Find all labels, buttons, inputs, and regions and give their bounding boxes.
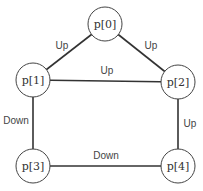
node-label: p[2] (167, 76, 190, 89)
node-p1: p[1] (16, 63, 50, 97)
node-p0: p[0] (88, 7, 122, 41)
node-label: p[0] (94, 18, 117, 31)
edge-label-p2-p4: Up (184, 118, 197, 129)
edge-label-p0-p2: Up (145, 40, 158, 51)
node-label: p[3] (22, 160, 45, 173)
node-p4: p[4] (161, 149, 195, 183)
edge-label-p1-p2: Up (101, 65, 114, 76)
node-label: p[4] (167, 160, 190, 173)
node-p2: p[2] (161, 65, 195, 99)
node-label: p[1] (22, 74, 45, 87)
edge-label-p0-p1: Up (56, 40, 69, 51)
node-p3: p[3] (16, 149, 50, 183)
edge-label-p1-p3: Down (3, 115, 29, 126)
graph-diagram: Up Up Up Down Up Down p[0] p[1] p[2] p[3… (0, 0, 203, 191)
edge-p1-p2 (33, 80, 178, 82)
edge-label-p3-p4: Down (93, 150, 119, 161)
